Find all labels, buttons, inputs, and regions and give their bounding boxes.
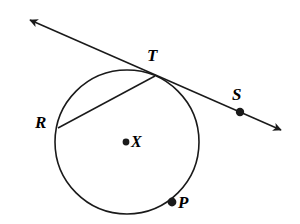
point-label-p: P	[178, 194, 188, 211]
point-dot-p	[168, 198, 177, 207]
point-dot-s	[236, 108, 244, 116]
point-label-s: S	[232, 86, 241, 103]
point-label-r: R	[35, 114, 46, 131]
point-label-t: T	[147, 47, 157, 64]
point-label-x: X	[131, 134, 142, 150]
geometry-canvas	[0, 0, 300, 224]
geometry-figure: T R S X P	[0, 0, 300, 224]
center-point-dot-x	[123, 139, 130, 146]
chord-segment-rt	[58, 76, 155, 128]
